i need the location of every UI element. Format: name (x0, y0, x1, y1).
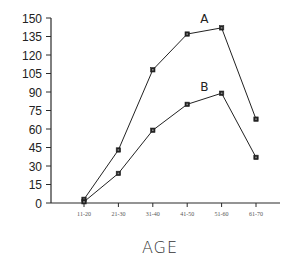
x-tick-label: 21-30 (111, 211, 125, 217)
series-b: B (82, 80, 258, 204)
y-tick-label: 15 (29, 178, 43, 192)
series-a: A (82, 12, 258, 202)
data-point-center (255, 157, 257, 159)
series-layer: AB (82, 12, 258, 204)
series-line-b (84, 93, 256, 202)
y-tick-label: 90 (29, 86, 43, 100)
y-tick-label: 135 (22, 30, 42, 44)
data-point-center (186, 104, 188, 106)
y-tick-label: 60 (29, 123, 43, 137)
y-tick-label: 45 (29, 141, 43, 155)
x-axis-title: AGE (142, 238, 178, 257)
x-tick-label: 31-40 (146, 211, 160, 217)
y-tick-label: 105 (22, 67, 42, 81)
y-tick-label: 30 (29, 160, 43, 174)
y-tick-label: 150 (22, 12, 42, 26)
series-label-b: B (200, 80, 208, 94)
series-line-a (84, 28, 256, 199)
x-tick-label: 51-60 (215, 211, 229, 217)
data-point-center (118, 149, 120, 151)
y-tick-label: 120 (22, 49, 42, 63)
x-axis: 11-2021-3031-4041-5051-6061-70 (51, 203, 280, 217)
series-label-a: A (200, 12, 209, 26)
y-tick-label: 75 (29, 104, 43, 118)
x-tick-label: 11-20 (77, 211, 91, 217)
y-axis: 0153045607590105120135150 (22, 12, 51, 211)
data-point-center (221, 92, 223, 94)
data-point-center (152, 69, 154, 71)
x-tick-label: 61-70 (249, 211, 263, 217)
data-point-center (83, 201, 85, 203)
data-point-center (186, 33, 188, 35)
data-point-center (221, 27, 223, 29)
line-chart: 0153045607590105120135150 11-2021-3031-4… (0, 0, 296, 263)
data-point-center (118, 173, 120, 175)
y-tick-label: 0 (35, 197, 42, 211)
data-point-center (255, 118, 257, 120)
data-point-center (152, 129, 154, 131)
x-tick-label: 41-50 (180, 211, 194, 217)
